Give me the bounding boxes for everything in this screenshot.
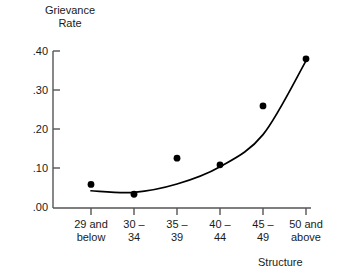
fitted-curve bbox=[91, 61, 306, 193]
data-point bbox=[174, 155, 181, 162]
chart-figure: Grievance Rate .40 .30 .20 .10 .00 29 an… bbox=[0, 0, 346, 280]
data-point bbox=[303, 55, 310, 62]
data-point bbox=[88, 181, 95, 188]
data-point bbox=[217, 161, 224, 168]
data-point bbox=[260, 103, 267, 110]
x-tick-label-5: 50 and above bbox=[279, 218, 333, 244]
x-axis-title: Structure bbox=[258, 256, 303, 269]
data-point bbox=[131, 191, 138, 198]
